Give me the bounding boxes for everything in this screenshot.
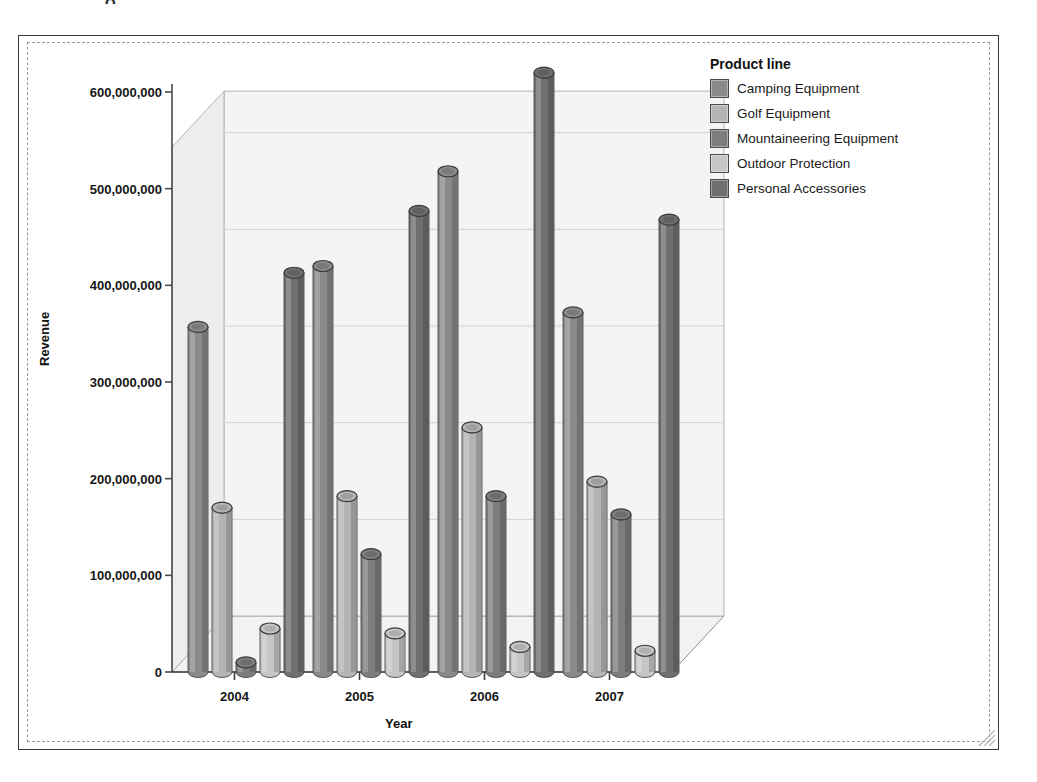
legend-item[interactable]: Outdoor Protection xyxy=(710,154,970,173)
bar-shadow xyxy=(399,633,404,672)
clipped-text-remnant: g xyxy=(104,0,118,4)
bar-shadow xyxy=(601,482,606,672)
legend-item[interactable]: Mountaineering Equipment xyxy=(710,129,970,148)
legend-title: Product line xyxy=(710,56,970,72)
bar-highlight xyxy=(440,171,445,672)
bar-highlight xyxy=(536,73,541,672)
legend-item-label: Camping Equipment xyxy=(737,81,859,96)
legend-item-label: Mountaineering Equipment xyxy=(737,131,898,146)
bar-cylinder[interactable] xyxy=(587,476,607,677)
bar-cylinder[interactable] xyxy=(188,321,208,677)
bar-highlight xyxy=(613,514,618,672)
bar-highlight xyxy=(339,496,344,672)
bar-highlight xyxy=(190,327,195,672)
bar-cap-inner xyxy=(442,168,454,174)
bar-cap-inner xyxy=(538,70,550,76)
chart-window: Revenue Year 0100,000,000200,000,000300,… xyxy=(18,35,999,750)
bar-cap-inner xyxy=(264,625,276,631)
bar-cylinder[interactable] xyxy=(260,623,280,678)
y-axis-tick-label: 400,000,000 xyxy=(30,278,162,293)
bar-shadow xyxy=(327,266,332,672)
bar-shadow xyxy=(423,211,428,672)
bar-cylinder[interactable] xyxy=(313,261,333,678)
bar-cylinder[interactable] xyxy=(409,205,429,677)
legend-swatch-icon xyxy=(710,79,729,98)
legend-item[interactable]: Golf Equipment xyxy=(710,104,970,123)
bar-shadow xyxy=(500,496,505,672)
bar-highlight xyxy=(315,266,320,672)
legend-item[interactable]: Camping Equipment xyxy=(710,79,970,98)
bar-shadow xyxy=(274,629,279,673)
bar-highlight xyxy=(464,427,469,672)
bar-cap-inner xyxy=(663,217,675,223)
x-axis-title: Year xyxy=(385,716,412,731)
y-axis-tick-label: 0 xyxy=(30,665,162,680)
bar-shadow xyxy=(625,514,630,672)
legend-swatch-icon xyxy=(710,154,729,173)
bar-cylinder[interactable] xyxy=(659,214,679,677)
bar-cap-inner xyxy=(514,644,526,650)
bar-shadow xyxy=(548,73,553,672)
bar-highlight xyxy=(363,554,368,672)
bar-highlight xyxy=(661,220,666,672)
bar-shadow xyxy=(673,220,678,672)
x-axis-tick-label: 2006 xyxy=(445,689,525,704)
bar-shadow xyxy=(226,508,231,672)
bar-cylinder[interactable] xyxy=(635,645,655,677)
legend: Product line Camping EquipmentGolf Equip… xyxy=(710,56,970,204)
legend-swatch-icon xyxy=(710,129,729,148)
bar-cap-inner xyxy=(341,493,353,499)
y-axis-title: Revenue xyxy=(37,312,52,366)
bar-shadow xyxy=(452,171,457,672)
y-axis-tick-label: 500,000,000 xyxy=(30,181,162,196)
legend-item-label: Outdoor Protection xyxy=(737,156,850,171)
bar-cylinder[interactable] xyxy=(385,628,405,678)
bar-shadow xyxy=(351,496,356,672)
bar-cylinder[interactable] xyxy=(212,502,232,677)
bar-highlight xyxy=(488,496,493,672)
bar-cylinder[interactable] xyxy=(563,307,583,678)
bar-cylinder[interactable] xyxy=(462,422,482,678)
bar-cap-inner xyxy=(466,424,478,430)
bar-cylinder[interactable] xyxy=(534,67,554,677)
legend-items: Camping EquipmentGolf EquipmentMountaine… xyxy=(710,79,970,198)
bar-cylinder[interactable] xyxy=(611,509,631,678)
bar-cap-inner xyxy=(317,263,329,269)
bar-cap-inner xyxy=(365,551,377,557)
bar-cylinder[interactable] xyxy=(486,491,506,678)
bar-cylinder[interactable] xyxy=(337,491,357,678)
bar-cylinder[interactable] xyxy=(284,267,304,677)
y-axis-tick-label: 600,000,000 xyxy=(30,85,162,100)
legend-item-label: Personal Accessories xyxy=(737,181,866,196)
bar-cap-inner xyxy=(389,630,401,636)
y-axis-tick-label: 200,000,000 xyxy=(30,471,162,486)
y-axis-tick-label: 300,000,000 xyxy=(30,375,162,390)
bar-cylinder[interactable] xyxy=(361,549,381,678)
bar-cylinder[interactable] xyxy=(510,641,530,677)
x-axis-tick-label: 2005 xyxy=(320,689,400,704)
y-axis-tick-label: 100,000,000 xyxy=(30,568,162,583)
bar-cap-inner xyxy=(567,309,579,315)
bar-cap-inner xyxy=(615,511,627,517)
legend-item[interactable]: Personal Accessories xyxy=(710,179,970,198)
bar-cap-inner xyxy=(240,659,252,665)
bar-cap-inner xyxy=(591,479,603,485)
bar-highlight xyxy=(589,482,594,672)
bar-shadow xyxy=(202,327,207,672)
bar-cap-inner xyxy=(413,208,425,214)
bar-cap-inner xyxy=(639,648,651,654)
x-axis-tick-label: 2004 xyxy=(195,689,275,704)
bar-highlight xyxy=(387,633,392,672)
bar-highlight xyxy=(411,211,416,672)
bar-shadow xyxy=(577,312,582,672)
bar-cap-inner xyxy=(288,270,300,276)
legend-swatch-icon xyxy=(710,179,729,198)
bar-shadow xyxy=(476,427,481,672)
bar-highlight xyxy=(286,273,291,672)
bar-cylinder[interactable] xyxy=(236,657,256,678)
bar-cap-inner xyxy=(490,493,502,499)
bar-shadow xyxy=(298,273,303,672)
resize-grip-icon[interactable] xyxy=(970,721,996,747)
bar-highlight xyxy=(565,312,570,672)
bar-cylinder[interactable] xyxy=(438,166,458,678)
